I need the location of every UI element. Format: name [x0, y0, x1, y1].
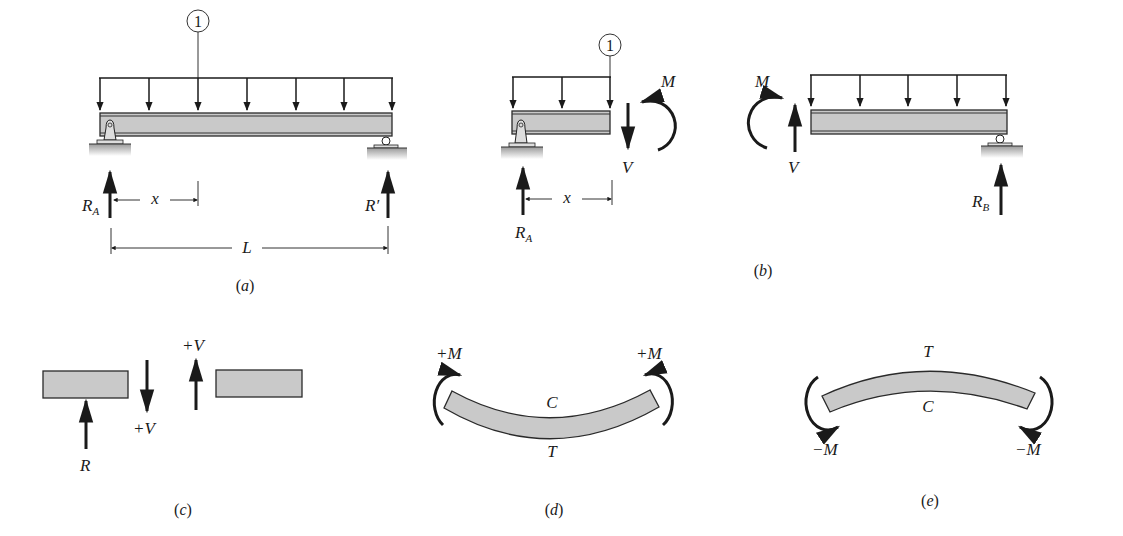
caption-b: (b) — [754, 262, 773, 280]
load-tag-circle-b: 1 — [599, 34, 621, 77]
reaction-arrow-r: R — [79, 401, 91, 475]
caption-e: (e) — [921, 492, 939, 510]
r-prime-label: R′ — [364, 196, 379, 215]
left-element — [43, 371, 128, 398]
compression-label-e: C — [922, 397, 934, 416]
panel-c: R +V +V (c) — [43, 336, 302, 519]
distributed-load-arrows — [99, 78, 393, 110]
tension-label: T — [547, 442, 558, 461]
minus-m-label-left: −M — [812, 440, 838, 459]
svg-text:RB: RB — [971, 192, 989, 213]
x-label-b: x — [562, 188, 571, 207]
plus-m-label-right: +M — [636, 344, 662, 363]
shear-arrow-up: +V — [182, 336, 206, 410]
compression-label: C — [546, 393, 558, 412]
moment-arrow-minus-m-left: −M — [806, 377, 839, 459]
shear-arrow-v-right: V — [788, 105, 801, 177]
l-label: L — [241, 238, 251, 257]
distributed-load-arrows-left — [512, 77, 611, 108]
plus-m-label-left: +M — [436, 344, 462, 363]
beam-shear-moment-figure: 1 — [0, 0, 1123, 536]
reaction-arrow-ra: RA — [81, 172, 110, 218]
plus-v-label-down: +V — [133, 419, 157, 438]
shear-arrow-down: +V — [133, 360, 157, 438]
roller-support — [367, 137, 407, 160]
r-label: R — [79, 456, 91, 475]
load-tag-circle: 1 — [187, 10, 209, 78]
right-element — [216, 370, 302, 397]
beam-right-segment — [811, 110, 1007, 134]
minus-m-label-right: −M — [1015, 440, 1041, 459]
m-label-right: M — [754, 72, 770, 91]
v-label-right: V — [788, 158, 801, 177]
roller-support-b — [981, 135, 1023, 158]
plus-v-label-up: +V — [182, 336, 206, 355]
moment-arrow-m-right: M — [748, 72, 782, 148]
panel-e: T C −M −M (e) — [806, 342, 1052, 510]
beam-left-segment — [512, 111, 610, 134]
shear-arrow-v-left: V — [622, 103, 635, 177]
position-dimension-x-b: x — [526, 180, 612, 207]
reaction-arrow-r-prime: R′ — [364, 172, 388, 218]
m-label-left: M — [660, 72, 676, 91]
moment-arrow-m-left: M — [642, 72, 676, 150]
span-dimension-l: L — [111, 226, 388, 257]
beam — [100, 113, 392, 136]
svg-text:RA: RA — [81, 196, 99, 217]
v-label-left: V — [622, 158, 635, 177]
svg-text:RA: RA — [514, 223, 532, 244]
x-label: x — [150, 189, 159, 208]
tension-label-e: T — [923, 342, 934, 361]
reaction-arrow-ra-b: RA — [514, 168, 532, 244]
caption-c: (c) — [174, 501, 192, 519]
caption-d: (d) — [545, 501, 564, 519]
caption-a: (a) — [236, 277, 255, 295]
reaction-arrow-rb: RB — [971, 165, 1001, 215]
distributed-load-arrows-right — [810, 75, 1007, 106]
panel-d: C T +M +M (d) — [434, 344, 672, 519]
panel-a: 1 — [81, 10, 407, 295]
panel-b: 1 RA x — [501, 34, 1023, 280]
position-dimension-x: x — [114, 181, 198, 208]
load-tag-label-b: 1 — [606, 37, 614, 54]
load-tag-label: 1 — [194, 13, 202, 30]
